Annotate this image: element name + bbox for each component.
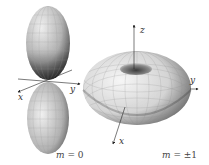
caption-m1-eq: = ±1 [171, 150, 198, 160]
torus-hole [120, 63, 152, 75]
upper-lobe [26, 6, 70, 80]
axis-label-z-m1: z [140, 26, 145, 35]
axis-label-y-m1: y [190, 76, 195, 85]
figure-svg [0, 0, 209, 165]
caption-m1-var: m [162, 150, 171, 160]
axis-label-y-m0: y [70, 85, 75, 94]
lower-lobe [27, 82, 69, 154]
panel-m1 [83, 25, 198, 144]
caption-m0-eq: = 0 [65, 150, 84, 160]
figure: y x z y x m = 0 m = ±1 [0, 0, 209, 165]
caption-m1: m = ±1 [162, 151, 197, 160]
axis-label-x-m1: x [119, 137, 124, 146]
axis-label-x-m0: x [18, 93, 23, 102]
caption-m0: m = 0 [56, 151, 84, 160]
panel-m0 [18, 6, 80, 154]
torus [83, 51, 191, 126]
caption-m0-var: m [56, 150, 65, 160]
